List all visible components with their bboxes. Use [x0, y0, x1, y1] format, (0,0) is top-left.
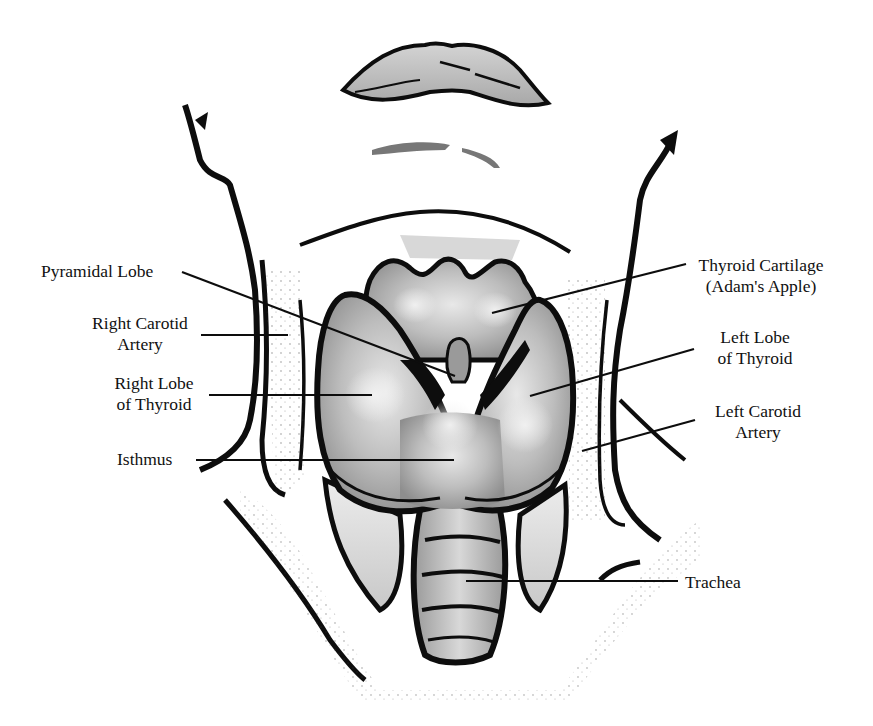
label-left-lobe-line2: of Thyroid	[705, 348, 805, 369]
trachea	[414, 503, 506, 663]
label-right-lobe-line2: of Thyroid	[104, 394, 204, 415]
chin-shading	[372, 142, 500, 168]
label-isthmus: Isthmus	[117, 449, 172, 470]
label-right-carotid-line2: Artery	[82, 334, 198, 355]
label-left-carotid-line1: Left Carotid	[703, 401, 813, 422]
label-right-lobe-of-thyroid: Right Lobe of Thyroid	[104, 373, 204, 415]
label-left-lobe-line1: Left Lobe	[705, 327, 805, 348]
label-trachea-text: Trachea	[685, 572, 741, 593]
label-right-lobe-line1: Right Lobe	[104, 373, 204, 394]
lips	[343, 43, 548, 105]
thyroid-diagram: Pyramidal Lobe Right Carotid Artery Righ…	[0, 0, 873, 726]
label-pyramidal-lobe-text: Pyramidal Lobe	[41, 261, 153, 282]
label-thyroid-cartilage-line2: (Adam's Apple)	[683, 276, 839, 297]
label-thyroid-cartilage-line1: Thyroid Cartilage	[683, 255, 839, 276]
label-left-carotid-artery: Left Carotid Artery	[703, 401, 813, 443]
label-thyroid-cartilage: Thyroid Cartilage (Adam's Apple)	[683, 255, 839, 297]
label-left-lobe-of-thyroid: Left Lobe of Thyroid	[705, 327, 805, 369]
label-isthmus-text: Isthmus	[117, 449, 172, 470]
label-left-carotid-line2: Artery	[703, 422, 813, 443]
label-trachea: Trachea	[685, 572, 741, 593]
label-pyramidal-lobe: Pyramidal Lobe	[41, 261, 153, 282]
label-right-carotid-artery: Right Carotid Artery	[82, 313, 198, 355]
label-right-carotid-line1: Right Carotid	[82, 313, 198, 334]
